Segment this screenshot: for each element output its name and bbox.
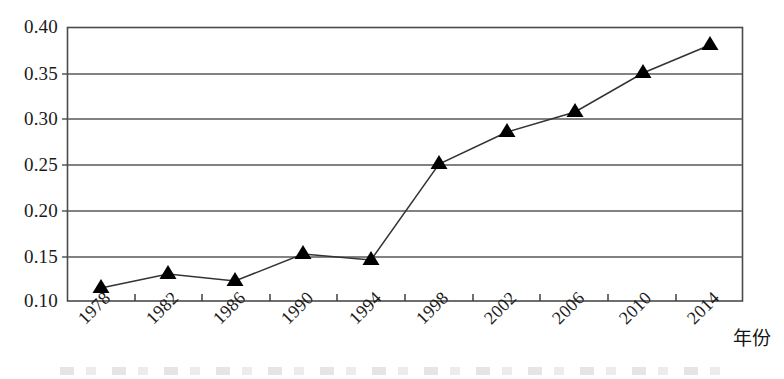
page-bottom-text-fragment <box>60 367 720 375</box>
ytick-label-4: 0.20 <box>2 200 58 222</box>
ytick-label-5: 0.15 <box>2 246 58 268</box>
ytick-label-2: 0.30 <box>2 108 58 130</box>
ytick-label-6: 0.10 <box>2 290 58 312</box>
x-axis-title: 年份 <box>733 323 771 350</box>
ytick-label-0: 0.40 <box>2 16 58 38</box>
line-chart: 0.40 0.35 0.30 0.25 0.20 0.15 0.10 1978 … <box>0 0 784 379</box>
ytick-label-1: 0.35 <box>2 63 58 85</box>
ytick-label-3: 0.25 <box>2 154 58 176</box>
chart-canvas <box>0 0 784 379</box>
